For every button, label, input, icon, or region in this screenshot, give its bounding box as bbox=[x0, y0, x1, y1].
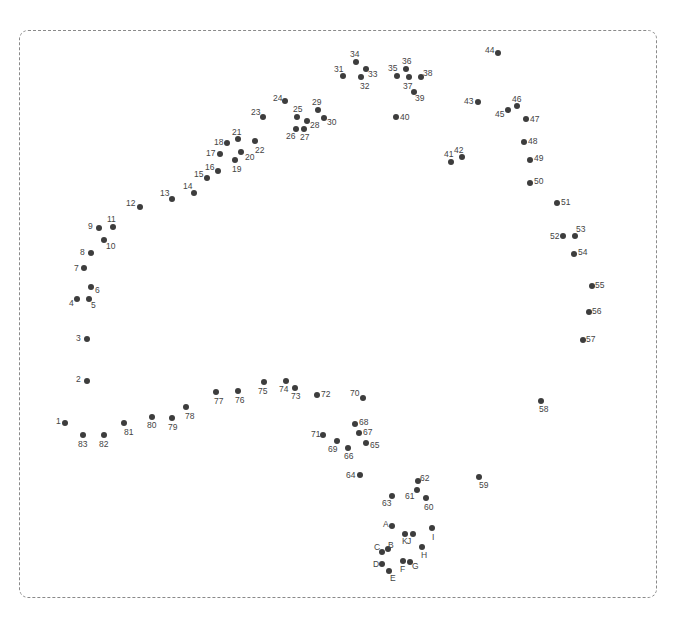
puzzle-dot bbox=[204, 175, 210, 181]
dot-label: 74 bbox=[279, 385, 288, 394]
dot-label: 63 bbox=[382, 499, 391, 508]
puzzle-dot bbox=[353, 59, 359, 65]
dot-label: 23 bbox=[251, 108, 260, 117]
dot-label: 60 bbox=[424, 503, 433, 512]
dot-label: 54 bbox=[578, 248, 587, 257]
puzzle-dot bbox=[560, 233, 566, 239]
puzzle-dot bbox=[261, 379, 267, 385]
dot-label: 32 bbox=[360, 82, 369, 91]
dot-label: 45 bbox=[495, 110, 504, 119]
dot-label: 20 bbox=[245, 153, 254, 162]
dot-label: 69 bbox=[328, 445, 337, 454]
dot-label: B bbox=[388, 541, 394, 550]
dot-label: 31 bbox=[334, 65, 343, 74]
dot-label: 43 bbox=[464, 97, 473, 106]
puzzle-dot bbox=[294, 114, 300, 120]
dot-label: 68 bbox=[359, 418, 368, 427]
dot-label: 6 bbox=[95, 286, 100, 295]
puzzle-dot bbox=[475, 99, 481, 105]
puzzle-dot bbox=[217, 151, 223, 157]
puzzle-dot bbox=[448, 159, 454, 165]
puzzle-dot bbox=[523, 116, 529, 122]
puzzle-dot bbox=[423, 495, 429, 501]
dot-label: 75 bbox=[258, 387, 267, 396]
dot-label: I bbox=[432, 533, 434, 542]
puzzle-dot bbox=[282, 98, 288, 104]
dot-label: 33 bbox=[368, 70, 377, 79]
dot-label: A bbox=[383, 520, 389, 529]
puzzle-dot bbox=[320, 432, 326, 438]
dot-label: 51 bbox=[561, 198, 570, 207]
puzzle-dot bbox=[363, 440, 369, 446]
dot-label: E bbox=[390, 574, 396, 583]
dot-label: D bbox=[373, 560, 379, 569]
dot-label: 49 bbox=[534, 154, 543, 163]
dot-label: C bbox=[374, 543, 380, 552]
dot-label: 53 bbox=[576, 225, 585, 234]
dot-label: 77 bbox=[214, 397, 223, 406]
puzzle-dot bbox=[352, 421, 358, 427]
dot-label: 11 bbox=[107, 215, 116, 224]
dot-label: 57 bbox=[586, 335, 595, 344]
puzzle-dot bbox=[495, 50, 501, 56]
dot-label: 46 bbox=[512, 95, 521, 104]
puzzle-dot bbox=[80, 432, 86, 438]
puzzle-dot bbox=[505, 107, 511, 113]
dot-label: 64 bbox=[346, 471, 355, 480]
dot-label: 40 bbox=[400, 113, 409, 122]
dot-label: 62 bbox=[420, 474, 429, 483]
dot-label: 7 bbox=[74, 264, 79, 273]
dot-label: 1 bbox=[56, 417, 61, 426]
dot-label: 29 bbox=[312, 98, 321, 107]
dot-label: 34 bbox=[350, 50, 359, 59]
dot-label: 25 bbox=[293, 105, 302, 114]
dot-label: 79 bbox=[168, 423, 177, 432]
dot-label: F bbox=[400, 565, 405, 574]
dot-label: 22 bbox=[255, 146, 264, 155]
dot-label: 47 bbox=[530, 115, 539, 124]
dot-label: 65 bbox=[370, 441, 379, 450]
dot-label: 18 bbox=[214, 138, 223, 147]
puzzle-dot bbox=[360, 395, 366, 401]
puzzle-dot bbox=[356, 430, 362, 436]
dot-label: G bbox=[412, 562, 419, 571]
dot-label: 82 bbox=[99, 440, 108, 449]
puzzle-dot bbox=[389, 523, 395, 529]
dot-label: 12 bbox=[126, 199, 135, 208]
dot-label: 9 bbox=[88, 222, 93, 231]
dot-label: 59 bbox=[479, 481, 488, 490]
dot-label: 15 bbox=[194, 170, 203, 179]
puzzle-frame bbox=[19, 30, 657, 598]
puzzle-dot bbox=[358, 74, 364, 80]
dot-label: 56 bbox=[592, 307, 601, 316]
dot-label: 61 bbox=[405, 492, 414, 501]
puzzle-dot bbox=[121, 420, 127, 426]
dot-label: 3 bbox=[76, 334, 81, 343]
dot-label: 24 bbox=[273, 94, 282, 103]
puzzle-dot bbox=[84, 336, 90, 342]
dot-label: 19 bbox=[232, 165, 241, 174]
dot-label: 76 bbox=[235, 396, 244, 405]
dot-label: 78 bbox=[185, 412, 194, 421]
dot-label: 58 bbox=[539, 405, 548, 414]
dot-label: 42 bbox=[454, 146, 463, 155]
puzzle-dot bbox=[527, 157, 533, 163]
dot-label: 21 bbox=[232, 128, 241, 137]
dot-label: 50 bbox=[534, 177, 543, 186]
puzzle-dot bbox=[357, 472, 363, 478]
dot-label: 67 bbox=[363, 428, 372, 437]
puzzle-dot bbox=[169, 196, 175, 202]
dot-label: 71 bbox=[311, 430, 320, 439]
puzzle-dot bbox=[393, 114, 399, 120]
puzzle-dot bbox=[183, 404, 189, 410]
puzzle-dot bbox=[96, 225, 102, 231]
dot-label: 30 bbox=[327, 118, 336, 127]
dot-label: 73 bbox=[291, 392, 300, 401]
puzzle-dot bbox=[101, 432, 107, 438]
dot-label: 26 bbox=[286, 132, 295, 141]
puzzle-dot bbox=[315, 107, 321, 113]
dot-label: 83 bbox=[78, 440, 87, 449]
dot-label: 38 bbox=[423, 69, 432, 78]
puzzle-dot bbox=[215, 168, 221, 174]
puzzle-dot bbox=[403, 66, 409, 72]
